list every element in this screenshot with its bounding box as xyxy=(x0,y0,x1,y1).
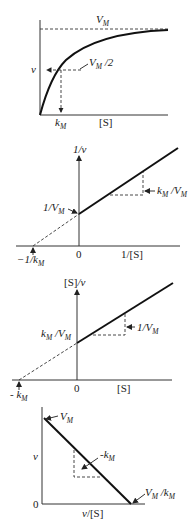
vmax-label: VM xyxy=(60,410,74,425)
panel-eadie-hofstee: VM v -kM VM /kM 0 v/[S] xyxy=(33,407,176,519)
s-label: [S] xyxy=(99,116,112,128)
intercept-label: kM /VM xyxy=(41,327,72,342)
slope-label: kM /VM xyxy=(157,184,188,199)
panel-hanes-woolf: [S]/v kM /VM 1/VM - kM 0 [S] xyxy=(10,276,173,403)
top-leader xyxy=(46,416,58,419)
panel-lineweaver-burk: 1/v 1/VM kM /VM −1/kM 0 1/[S] xyxy=(16,143,188,268)
y-axis-label: v xyxy=(33,450,38,462)
v-label: v xyxy=(31,63,36,75)
slope-triangle xyxy=(74,450,101,477)
x-intercept-label: VM /kM xyxy=(145,486,176,501)
x-intercept-label: −1/kM xyxy=(17,253,45,268)
x-axis-label: v/[S] xyxy=(82,507,103,519)
vmax-label: VM xyxy=(96,13,110,28)
intercept-label: 1/VM xyxy=(43,201,65,216)
slope-leader xyxy=(82,458,98,469)
slope-label: 1/VM xyxy=(137,321,159,336)
y-axis-label: [S]/v xyxy=(64,276,86,288)
extrapolation xyxy=(33,214,79,246)
half-vmax-label: VM /2 xyxy=(89,56,114,71)
origin-label: 0 xyxy=(33,498,39,510)
x-axis-label: [S] xyxy=(117,382,130,394)
x-axis-label: 1/[S] xyxy=(121,248,143,260)
km-label: kM xyxy=(55,116,67,131)
origin-label: 0 xyxy=(74,382,80,394)
slope-label: -kM xyxy=(100,448,116,463)
extrapolation xyxy=(19,343,77,380)
origin-label: 0 xyxy=(76,248,82,260)
intercept-leader xyxy=(68,209,77,213)
kinetics-figure: VM VM /2 v kM [S] 1/v 1/VM kM /VM −1/kM … xyxy=(0,0,195,525)
panel-michaelis-menten: VM VM /2 v kM [S] xyxy=(31,13,170,131)
saturation-curve xyxy=(40,30,168,115)
x-intercept-leader xyxy=(133,494,145,503)
y-axis-label: 1/v xyxy=(73,143,87,155)
x-intercept-label: - kM xyxy=(10,388,28,403)
half-leader xyxy=(80,64,88,69)
eadie-line xyxy=(44,418,131,504)
reciprocal-line xyxy=(79,148,178,214)
